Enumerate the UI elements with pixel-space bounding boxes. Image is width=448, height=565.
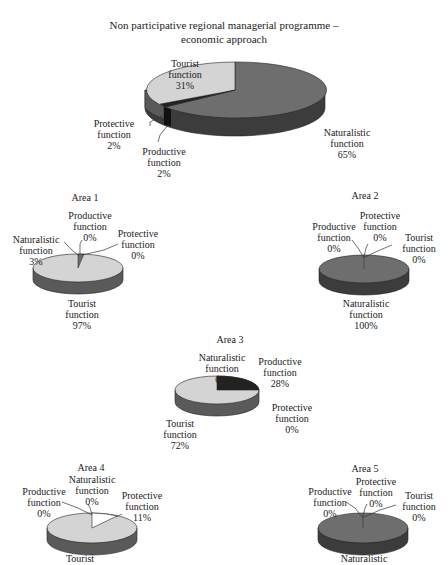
area4-title: Area 4: [66, 462, 116, 473]
label-line: 0%: [394, 254, 444, 265]
label-line: function: [82, 129, 146, 140]
area2-label-naturalistic: Naturalistic function 100%: [336, 298, 396, 331]
area4-label-protective: Protective function 11%: [112, 490, 172, 523]
label-line: 100%: [336, 320, 396, 331]
label-line: Tourist: [394, 490, 444, 501]
label-line: function: [110, 239, 166, 250]
label-line: 0%: [306, 243, 362, 254]
area3-label-naturalistic: Naturalistic function 0%: [192, 352, 252, 385]
label-line: Protective: [112, 490, 172, 501]
area1-label-tourist: Tourist function 97%: [54, 298, 110, 331]
label-line: Naturalistic: [312, 127, 382, 138]
label-line: Naturalistic: [192, 352, 252, 363]
area3-label-protective: Protective function 0%: [262, 402, 322, 435]
label-line: Protective: [110, 228, 166, 239]
area4-label-tourist: Tourist: [52, 553, 108, 564]
label-line: Productive: [62, 210, 118, 221]
label-line: Naturalistic: [62, 474, 122, 485]
label-line: function: [54, 309, 110, 320]
label-line: function: [394, 243, 444, 254]
label-line: function: [250, 367, 310, 378]
label-line: function: [352, 221, 408, 232]
area3-title: Area 3: [205, 334, 255, 345]
area5-label-tourist: Tourist function 0%: [394, 490, 444, 523]
label-line: function: [312, 138, 382, 149]
area3-label-tourist: Tourist function 72%: [152, 418, 208, 451]
area2-label-tourist: Tourist function 0%: [394, 232, 444, 265]
area1-title: Area 1: [60, 192, 110, 203]
label-line: Tourist: [394, 232, 444, 243]
label-line: 0%: [262, 424, 322, 435]
label-line: function: [394, 501, 444, 512]
main-label-productive: Productive function 2%: [132, 146, 196, 179]
label-line: function: [112, 501, 172, 512]
label-line: function: [132, 157, 196, 168]
label-line: Naturalistic: [8, 234, 64, 245]
label-line: function: [336, 309, 396, 320]
label-line: 72%: [152, 440, 208, 451]
label-line: 0%: [394, 512, 444, 523]
area3-label-productive: Productive function 28%: [250, 356, 310, 389]
label-line: 0%: [302, 508, 358, 519]
label-line: function: [8, 245, 64, 256]
label-line: Tourist: [150, 58, 220, 69]
main-label-tourist: Tourist function 31%: [150, 58, 220, 91]
label-line: Naturalistic: [336, 298, 396, 309]
label-line: 0%: [192, 374, 252, 385]
label-line: Tourist: [54, 298, 110, 309]
area5-title: Area 5: [340, 463, 390, 474]
area2-title: Area 2: [340, 190, 390, 201]
main-label-naturalistic: Naturalistic function 65%: [312, 127, 382, 160]
label-line: 3%: [8, 256, 64, 267]
label-line: Protective: [262, 402, 322, 413]
label-line: Tourist: [152, 418, 208, 429]
label-line: 28%: [250, 378, 310, 389]
label-line: 31%: [150, 80, 220, 91]
label-line: 65%: [312, 149, 382, 160]
label-line: 2%: [132, 168, 196, 179]
label-line: function: [150, 69, 220, 80]
label-line: 97%: [54, 320, 110, 331]
label-line: Protective: [82, 118, 146, 129]
label-line: Productive: [250, 356, 310, 367]
label-line: 11%: [112, 512, 172, 523]
label-line: function: [262, 413, 322, 424]
label-line: Protective: [348, 476, 404, 487]
label-line: Naturalistic: [334, 553, 394, 564]
area5-label-naturalistic: Naturalistic: [334, 553, 394, 564]
label-line: Productive: [132, 146, 196, 157]
label-line: 0%: [110, 250, 166, 261]
label-line: function: [152, 429, 208, 440]
label-line: 0%: [16, 508, 72, 519]
label-line: Tourist: [52, 553, 108, 564]
area1-label-naturalistic: Naturalistic function 3%: [8, 234, 64, 267]
label-line: Protective: [352, 210, 408, 221]
label-line: function: [192, 363, 252, 374]
area1-label-protective: Protective function 0%: [110, 228, 166, 261]
